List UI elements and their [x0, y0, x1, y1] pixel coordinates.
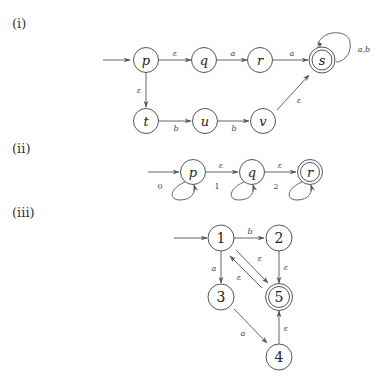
edge-label-s-s: a,b	[358, 45, 370, 54]
svg-text:r: r	[307, 165, 314, 180]
edge-label-2-5: ε	[284, 263, 288, 272]
edge-label-t-u: b	[173, 124, 178, 133]
svg-text:p: p	[142, 53, 151, 68]
svg-text:v: v	[259, 114, 267, 129]
edge-label-1-2: b	[247, 227, 252, 236]
svg-text:3: 3	[217, 289, 226, 305]
edge-label-p-t: ε	[137, 86, 141, 95]
edge-label-4-5: ε	[284, 324, 288, 333]
edge-label-3-4: a	[241, 329, 246, 338]
edge-label-q-r: ε	[278, 161, 282, 170]
state-u: u	[193, 109, 218, 134]
edge-label-r-s: a	[290, 49, 295, 58]
edge-label-p-q: ε	[173, 49, 177, 58]
diagram-label-iii: (iii)	[12, 205, 35, 220]
edge-label-q-r: a	[231, 49, 236, 58]
state-4: 4	[266, 344, 292, 370]
svg-text:p: p	[189, 165, 198, 180]
edge-label-1-5: ε	[258, 254, 262, 263]
edge-label-q-q: 1	[214, 182, 219, 191]
edge-label-r-r: 2	[273, 182, 278, 191]
svg-text:s: s	[319, 53, 326, 68]
state-r-accepting: r	[298, 160, 323, 185]
edge-label-p-p: 0	[157, 182, 162, 191]
svg-text:q: q	[248, 165, 256, 180]
state-t: t	[134, 109, 159, 134]
svg-text:t: t	[143, 114, 149, 129]
diagram-label-i: (i)	[12, 16, 26, 31]
svg-text:2: 2	[275, 230, 284, 246]
edge-label-u-v: b	[231, 124, 236, 133]
svg-text:5: 5	[275, 289, 284, 305]
svg-text:r: r	[257, 53, 264, 68]
state-3: 3	[208, 284, 234, 310]
state-1: 1	[208, 225, 234, 251]
svg-text:1: 1	[217, 230, 226, 246]
state-2: 2	[266, 225, 292, 251]
diagram-iii: (iii) b a ε ε ε a ε 1 2 3 4	[12, 205, 293, 370]
state-5-accepting: 5	[266, 284, 293, 311]
diagram-ii: (ii) 0 ε 1 ε 2 p q r	[12, 141, 323, 200]
edge-label-5-1: ε	[237, 273, 241, 282]
svg-text:4: 4	[275, 349, 284, 365]
edge-v-s	[277, 75, 309, 110]
state-p: p	[134, 48, 159, 73]
state-q: q	[192, 48, 217, 73]
edge-label-1-3: a	[212, 264, 217, 273]
state-p: p	[181, 160, 206, 185]
state-v: v	[251, 109, 276, 134]
state-q: q	[240, 160, 265, 185]
diagram-label-ii: (ii)	[12, 141, 30, 156]
state-s-accepting: s	[309, 47, 335, 73]
diagram-i: (i) ε a a a,b ε b b ε p q r	[12, 16, 370, 134]
edge-label-v-s: ε	[297, 96, 301, 105]
state-r: r	[248, 48, 273, 73]
edge-3-4	[234, 309, 267, 343]
svg-text:u: u	[201, 114, 209, 129]
svg-text:q: q	[200, 53, 208, 68]
nfa-diagrams: (i) ε a a a,b ε b b ε p q r	[0, 0, 377, 382]
edge-label-p-q: ε	[219, 161, 223, 170]
